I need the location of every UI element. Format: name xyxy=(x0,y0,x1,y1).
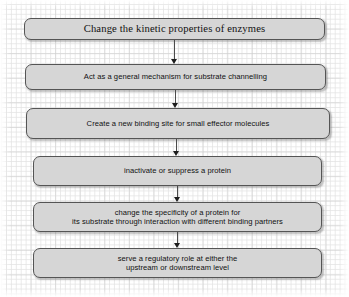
connector-shaft xyxy=(174,40,175,59)
flowchart-node-regulatory-role[interactable]: serve a regulatory role at either the up… xyxy=(33,248,322,278)
connector-shaft xyxy=(177,232,178,243)
flowchart-node-label: change the specificity of a protein for … xyxy=(66,208,289,227)
down-arrow-icon xyxy=(173,232,182,248)
flowchart-node-inactivate-suppress-protein[interactable]: inactivate or suppress a protein xyxy=(33,156,322,186)
flowchart-node-label: Create a new binding site for small effe… xyxy=(81,119,276,128)
connector-shaft xyxy=(177,186,178,197)
connector-shaft xyxy=(175,90,176,103)
down-arrow-icon xyxy=(173,186,182,202)
down-arrow-icon xyxy=(170,40,179,64)
down-arrow-icon xyxy=(171,90,180,108)
flowchart-node-label: Act as a general mechanism for substrate… xyxy=(78,72,273,81)
connector-shaft xyxy=(176,139,177,151)
flowchart-node-change-kinetic-properties[interactable]: Change the kinetic properties of enzymes xyxy=(24,18,325,40)
flowchart-canvas: Change the kinetic properties of enzymes… xyxy=(0,0,349,297)
down-arrow-icon xyxy=(172,139,181,156)
flowchart-node-new-binding-site[interactable]: Create a new binding site for small effe… xyxy=(26,108,330,139)
flowchart-node-substrate-channelling[interactable]: Act as a general mechanism for substrate… xyxy=(25,64,326,90)
flowchart-node-label: inactivate or suppress a protein xyxy=(118,166,237,175)
flowchart-node-label: Change the kinetic properties of enzymes xyxy=(78,23,272,36)
flowchart-node-label: serve a regulatory role at either the up… xyxy=(112,254,244,273)
flowchart-node-change-specificity[interactable]: change the specificity of a protein for … xyxy=(33,202,322,232)
